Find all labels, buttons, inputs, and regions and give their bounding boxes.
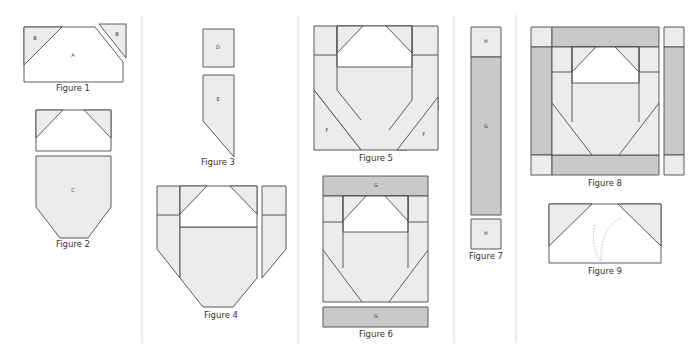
piece-label: G [484, 123, 488, 129]
figure-5: FFFigure 5 [314, 26, 438, 163]
figures-group: BBAFigure 1CFigure 2DEFigure 3Figure 4FF… [24, 24, 684, 339]
quilt-piece [664, 155, 684, 175]
piece-label: G [374, 313, 378, 319]
figure-caption: Figure 6 [359, 329, 393, 339]
quilt-piece [531, 27, 552, 47]
quilt-piece [180, 227, 257, 307]
figure-caption: Figure 7 [469, 251, 503, 261]
quilt-piece [471, 57, 501, 215]
piece-label: C [71, 187, 75, 193]
quilt-piece [531, 155, 552, 175]
piece-label: B [33, 35, 37, 41]
piece-label: H [484, 230, 488, 236]
figure-1: BBAFigure 1 [24, 24, 126, 93]
piece-label: F [423, 131, 426, 137]
figure-3: DEFigure 3 [201, 29, 235, 167]
figure-caption: Figure 5 [359, 153, 393, 163]
quilt-piece [262, 186, 286, 278]
quilt-piece [36, 156, 111, 238]
quilt-piece [157, 186, 180, 278]
quilt-piece [664, 27, 684, 47]
quilt-diagram-canvas: BBAFigure 1CFigure 2DEFigure 3Figure 4FF… [0, 0, 694, 359]
figure-caption: Figure 2 [56, 239, 90, 249]
quilt-piece [552, 27, 659, 47]
figure-caption: Figure 1 [56, 83, 90, 93]
figure-caption: Figure 8 [588, 178, 622, 188]
figure-2: CFigure 2 [36, 110, 111, 249]
piece-label: F [326, 127, 329, 133]
quilt-piece [664, 47, 684, 155]
figure-7: HGHFigure 7 [469, 27, 503, 261]
quilt-piece [203, 75, 234, 157]
figure-6: GGFigure 6 [323, 176, 428, 339]
piece-label: B [115, 31, 119, 37]
figure-caption: Figure 4 [204, 310, 238, 320]
figure-8: Figure 8 [531, 27, 684, 188]
figure-caption: Figure 9 [588, 266, 622, 276]
figures-page: BBAFigure 1CFigure 2DEFigure 3Figure 4FF… [0, 0, 694, 359]
figure-4: Figure 4 [157, 186, 286, 320]
quilt-piece [552, 155, 659, 175]
piece-label: A [71, 52, 75, 58]
piece-label: D [216, 44, 220, 50]
piece-label: H [484, 38, 488, 44]
figure-9: Figure 9 [549, 204, 661, 276]
quilt-piece [531, 47, 552, 155]
piece-label: G [374, 182, 378, 188]
piece-label: E [216, 96, 219, 102]
figure-caption: Figure 3 [201, 157, 235, 167]
